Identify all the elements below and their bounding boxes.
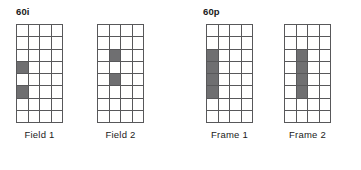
- grid-cell: [40, 37, 52, 49]
- grid-cell: [207, 62, 219, 74]
- grid-cell: [121, 86, 133, 98]
- grid-cell: [29, 74, 41, 86]
- grid-cell: [133, 74, 145, 86]
- grid-cell: [207, 86, 219, 98]
- group-interlaced: 60i Field 1 Field 2: [0, 0, 180, 170]
- grid-cell: [297, 111, 309, 123]
- grid-cell: [297, 37, 309, 49]
- grid-cell: [308, 74, 320, 86]
- grid-cell: [320, 74, 332, 86]
- grid-cell: [17, 86, 29, 98]
- grid-cell: [297, 62, 309, 74]
- grid-cell: [308, 86, 320, 98]
- grid-cell: [17, 99, 29, 111]
- grid-cell: [98, 50, 110, 62]
- grid-cell: [98, 86, 110, 98]
- grid-cell: [230, 37, 242, 49]
- grid-cell: [297, 86, 309, 98]
- grid-cell: [308, 62, 320, 74]
- grid-cell: [40, 74, 52, 86]
- grid-cell: [121, 111, 133, 123]
- panel-frame-1: Frame 1: [206, 24, 253, 123]
- grid-cell: [219, 62, 231, 74]
- panel-label-field-2: Field 2: [87, 128, 154, 142]
- grid-cell: [110, 86, 122, 98]
- grid-cell: [121, 25, 133, 37]
- panel-field-1: Field 1: [16, 24, 63, 123]
- grid-cell: [121, 62, 133, 74]
- grid-cell: [52, 62, 64, 74]
- grid-cell: [320, 25, 332, 37]
- grid-cell: [207, 74, 219, 86]
- grid-cell: [110, 74, 122, 86]
- grid-cell: [207, 111, 219, 123]
- grid-cell: [308, 37, 320, 49]
- grid-cell: [285, 74, 297, 86]
- grid-cell: [52, 111, 64, 123]
- grid-cell: [133, 86, 145, 98]
- grid-cell: [207, 99, 219, 111]
- grid-cell: [219, 111, 231, 123]
- grid-cell: [110, 37, 122, 49]
- grid-cell: [17, 50, 29, 62]
- grid-cell: [133, 99, 145, 111]
- grid-cell: [308, 50, 320, 62]
- grid-cell: [29, 86, 41, 98]
- grid-cell: [98, 62, 110, 74]
- grid-cell: [121, 99, 133, 111]
- grid-cell: [40, 25, 52, 37]
- grid-cell: [242, 111, 254, 123]
- group-title-60i: 60i: [16, 6, 30, 18]
- pixel-grid-field-2: [97, 24, 144, 123]
- grid-cell: [320, 111, 332, 123]
- grid-cell: [219, 25, 231, 37]
- panel-frame-2: Frame 2: [284, 24, 331, 123]
- grid-cell: [110, 62, 122, 74]
- grid-cell: [219, 99, 231, 111]
- grid-cell: [242, 50, 254, 62]
- grid-cell: [110, 99, 122, 111]
- grid-cell: [285, 111, 297, 123]
- grid-cell: [320, 50, 332, 62]
- grid-cell: [308, 99, 320, 111]
- grid-cell: [320, 37, 332, 49]
- grid-cell: [133, 111, 145, 123]
- grid-cell: [40, 86, 52, 98]
- grid-cell: [219, 50, 231, 62]
- grid-cell: [285, 25, 297, 37]
- grid-cell: [110, 25, 122, 37]
- grid-cell: [121, 37, 133, 49]
- grid-cell: [230, 62, 242, 74]
- grid-cell: [219, 74, 231, 86]
- grid-cell: [52, 99, 64, 111]
- panel-label-frame-1: Frame 1: [196, 128, 263, 142]
- grid-cell: [230, 86, 242, 98]
- grid-cell: [230, 99, 242, 111]
- grid-cell: [133, 25, 145, 37]
- grid-cell: [110, 50, 122, 62]
- grid-cell: [230, 111, 242, 123]
- grid-cell: [29, 25, 41, 37]
- grid-cell: [98, 99, 110, 111]
- group-title-60p: 60p: [203, 6, 220, 18]
- grid-cell: [98, 111, 110, 123]
- grid-cell: [29, 99, 41, 111]
- grid-cell: [242, 74, 254, 86]
- grid-cell: [320, 99, 332, 111]
- grid-cell: [52, 74, 64, 86]
- grid-cell: [98, 74, 110, 86]
- panel-field-2: Field 2: [97, 24, 144, 123]
- grid-cell: [285, 37, 297, 49]
- grid-cell: [242, 62, 254, 74]
- grid-cell: [52, 37, 64, 49]
- grid-cell: [285, 99, 297, 111]
- grid-cell: [17, 74, 29, 86]
- grid-cell: [52, 50, 64, 62]
- grid-cell: [29, 111, 41, 123]
- grid-cell: [242, 86, 254, 98]
- grid-cell: [110, 111, 122, 123]
- grid-cell: [40, 50, 52, 62]
- grid-cell: [230, 50, 242, 62]
- grid-cell: [242, 99, 254, 111]
- panel-label-frame-2: Frame 2: [274, 128, 341, 142]
